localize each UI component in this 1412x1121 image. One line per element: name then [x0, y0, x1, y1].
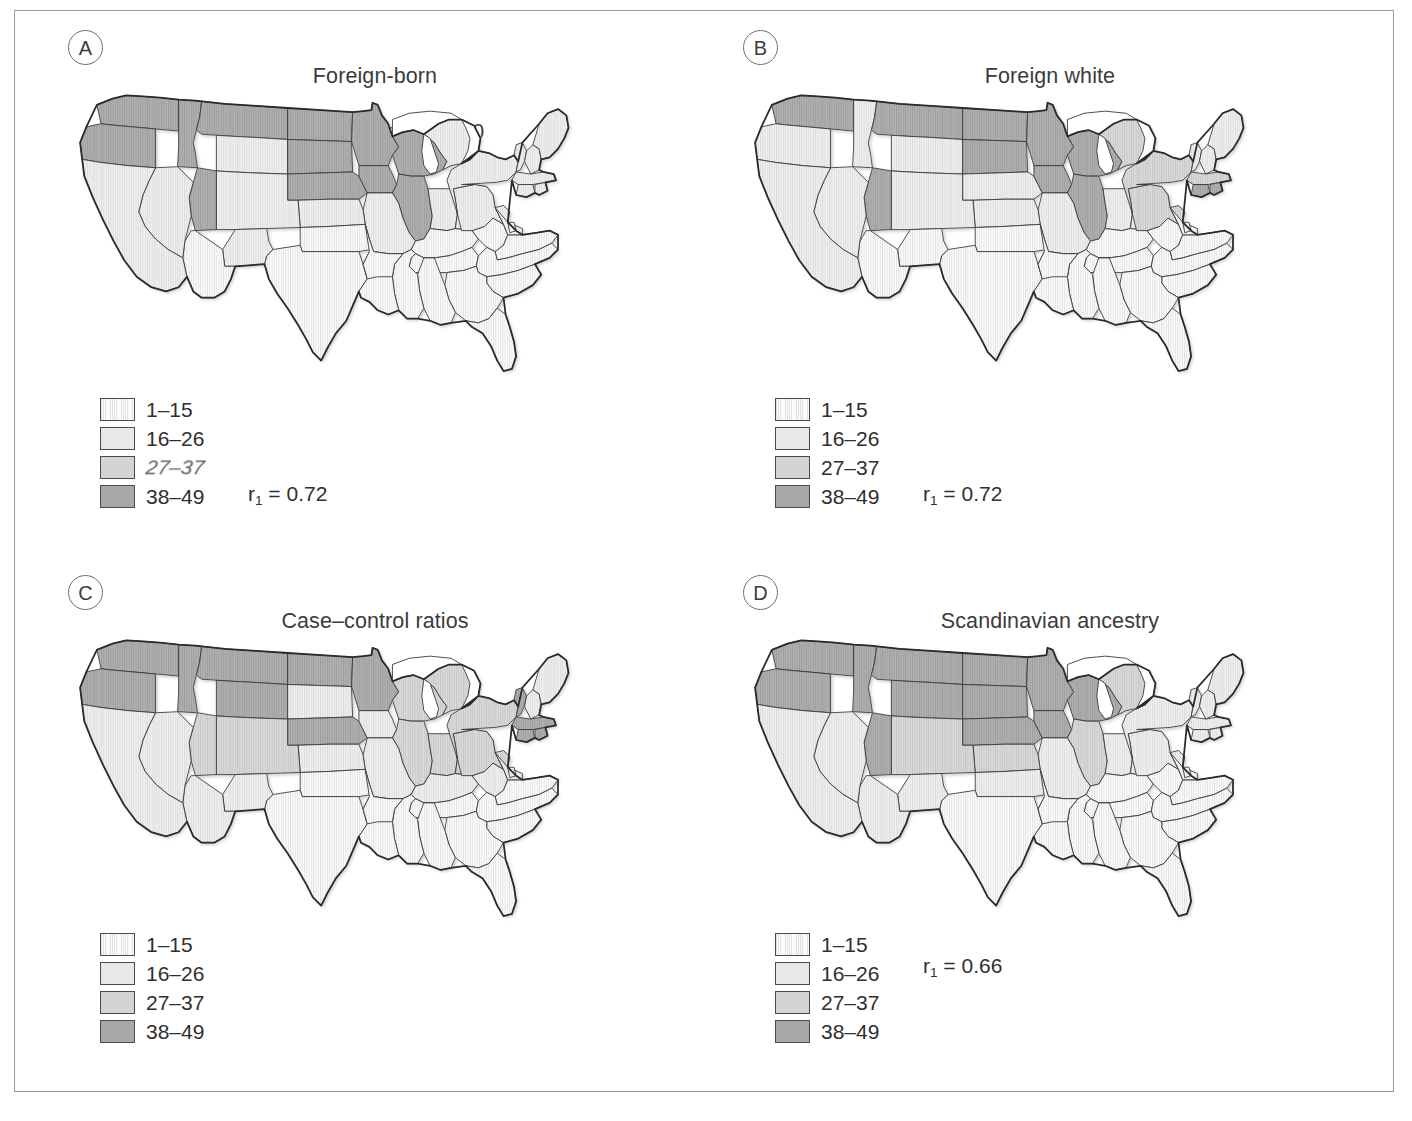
us-map-b: [753, 92, 1298, 407]
state-ks: [973, 744, 1040, 772]
legend-row: 38–49: [775, 1020, 879, 1043]
state-ks: [298, 744, 365, 772]
us-map-c: [78, 637, 623, 952]
legend-label-3: 27–37: [146, 991, 204, 1014]
panel-c: C Case–control ratios (Kurtzke et al 197…: [0, 540, 706, 1100]
panel-b: B Foreign white stock in 1930 1–15 16–26…: [645, 0, 1351, 560]
panel-title-b-line1: Foreign white: [985, 64, 1115, 88]
legend-label-4: 38–49: [146, 485, 204, 508]
legend-swatch-2: [775, 962, 810, 985]
state-ut: [189, 168, 216, 231]
us-choropleth-d: [753, 637, 1298, 952]
state-ne: [963, 717, 1043, 745]
legend-swatch-4: [775, 485, 810, 508]
panel-title-a-line1: Foreign-born: [313, 64, 437, 88]
state-nm: [223, 229, 273, 267]
legend-row: 16–26: [775, 427, 879, 450]
correlation-value-a: r1 = 0.72: [248, 482, 327, 506]
state-ok: [975, 224, 1046, 251]
legend-label-3: 27–37: [145, 456, 206, 478]
state-ok: [300, 224, 371, 251]
legend-swatch-1: [100, 933, 135, 956]
state-nm: [898, 774, 948, 812]
state-nd: [963, 108, 1028, 142]
panel-title-d-line1: Scandinavian ancestry: [941, 609, 1159, 633]
state-nm: [898, 229, 948, 267]
state-nd: [288, 108, 353, 142]
legend-row: 27–37: [775, 456, 879, 479]
legend-label-2: 16–26: [821, 427, 879, 450]
legend-swatch-3: [775, 456, 810, 479]
figure-root: A Foreign-born Scandinavians in 1930 1–1…: [0, 0, 1412, 1121]
correlation-value-b: r1 = 0.72: [923, 482, 1002, 506]
us-choropleth-c: [78, 637, 623, 952]
panel-letter-d: D: [743, 575, 778, 610]
state-ut: [189, 713, 216, 776]
legend-row: 38–49: [100, 485, 204, 508]
state-co: [891, 171, 975, 230]
state-tx: [940, 245, 1043, 360]
legend-row: 27–37: [100, 456, 204, 479]
legend-swatch-3: [100, 991, 135, 1014]
state-nd: [288, 653, 353, 687]
legend-b: 1–15 16–26 27–37 38–49: [775, 398, 879, 514]
legend-row: 1–15: [775, 398, 879, 421]
legend-label-3: 27–37: [821, 991, 879, 1014]
legend-label-2: 16–26: [146, 962, 204, 985]
state-id: [178, 645, 202, 713]
correlation-value-d: r1 = 0.66: [923, 954, 1002, 978]
legend-swatch-1: [775, 933, 810, 956]
state-wy: [216, 680, 287, 719]
legend-label-2: 16–26: [146, 427, 204, 450]
legend-label-4: 38–49: [821, 1020, 879, 1043]
state-tx: [265, 790, 368, 905]
legend-label-4: 38–49: [146, 1020, 204, 1043]
legend-row: 1–15: [100, 398, 204, 421]
r-symbol: r: [248, 482, 255, 505]
legend-a: 1–15 16–26 27–37 38–49: [100, 398, 204, 514]
panel-letter-b: B: [743, 30, 778, 65]
r-symbol: r: [923, 482, 930, 505]
legend-label-2: 16–26: [821, 962, 879, 985]
state-sd: [288, 139, 353, 174]
us-map-d: [753, 637, 1298, 952]
state-id: [853, 645, 877, 713]
r-subscript: 1: [930, 493, 938, 508]
state-ok: [975, 769, 1046, 796]
state-ne: [288, 172, 368, 200]
state-sd: [963, 139, 1028, 174]
state-wy: [216, 135, 287, 174]
legend-swatch-4: [100, 1020, 135, 1043]
r-subscript: 1: [255, 493, 263, 508]
state-sd: [963, 684, 1028, 719]
legend-row: 1–15: [100, 933, 204, 956]
panel-d: D Scandinavian ancestry 1–15 16–26 27–37…: [645, 540, 1351, 1100]
panel-title-c-line1: Case–control ratios: [281, 609, 468, 633]
legend-swatch-3: [775, 991, 810, 1014]
legend-label-4: 38–49: [821, 485, 879, 508]
legend-row: 1–15: [775, 933, 879, 956]
state-nm: [223, 774, 273, 812]
legend-label-1: 1–15: [821, 933, 868, 956]
state-ut: [864, 713, 891, 776]
panel-letter-c: C: [68, 575, 103, 610]
state-tx: [940, 790, 1043, 905]
r-number: = 0.72: [263, 482, 328, 505]
legend-row: 16–26: [100, 962, 204, 985]
r-number: = 0.66: [938, 954, 1003, 977]
legend-row: 16–26: [100, 427, 204, 450]
legend-row: 38–49: [100, 1020, 204, 1043]
us-choropleth-b: [753, 92, 1298, 407]
state-ne: [288, 717, 368, 745]
legend-label-3: 27–37: [821, 456, 879, 479]
state-ok: [300, 769, 371, 796]
legend-c: 1–15 16–26 27–37 38–49: [100, 933, 204, 1049]
r-symbol: r: [923, 954, 930, 977]
legend-label-1: 1–15: [821, 398, 868, 421]
state-sd: [288, 684, 353, 719]
state-co: [216, 716, 300, 775]
legend-row: 27–37: [775, 991, 879, 1014]
legend-swatch-2: [100, 962, 135, 985]
legend-row: 38–49: [775, 485, 879, 508]
state-ne: [963, 172, 1043, 200]
